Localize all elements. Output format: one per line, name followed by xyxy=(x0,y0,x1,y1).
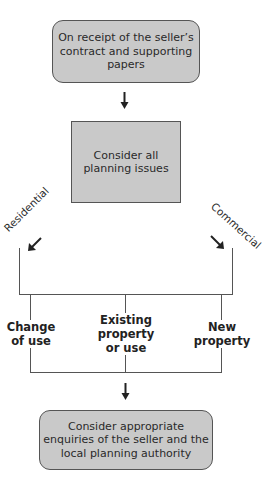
option-existing-property: Existing property or use xyxy=(96,313,156,355)
arrow-down-left-icon xyxy=(27,236,43,252)
bracket-bottom-horizontal xyxy=(30,372,222,373)
option-new-property: New property xyxy=(191,320,253,348)
planning-issues-box: Consider all planning issues xyxy=(71,121,181,203)
option-change-of-use: Change of use xyxy=(4,320,58,348)
start-box-text: On receipt of the seller’s contract and … xyxy=(58,31,194,72)
start-box: On receipt of the seller’s contract and … xyxy=(52,20,200,83)
arrow-down-icon xyxy=(120,92,129,109)
arrow-down-icon xyxy=(121,383,130,400)
arrow-down-right-icon xyxy=(209,234,225,250)
branch-label-residential: Residential xyxy=(2,185,51,234)
bracket-right-vertical xyxy=(232,248,233,295)
bracket-top-horizontal xyxy=(19,294,233,295)
enquiries-box: Consider appropriate enquiries of the se… xyxy=(39,410,213,470)
bracket-left-vertical xyxy=(19,248,20,295)
enquiries-box-text: Consider appropriate enquiries of the se… xyxy=(43,420,209,461)
planning-issues-text: Consider all planning issues xyxy=(83,149,168,176)
